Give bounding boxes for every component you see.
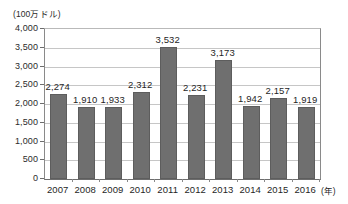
bar-value-label: 3,173 bbox=[206, 47, 240, 58]
y-axis-tick-mark bbox=[40, 141, 44, 142]
bar-value-label: 2,312 bbox=[123, 79, 157, 90]
y-axis-tick-mark bbox=[40, 84, 44, 85]
x-axis-tick-mark bbox=[99, 179, 100, 182]
y-axis-tick-label: 1,000 bbox=[15, 136, 38, 146]
bar-value-label: 1,933 bbox=[96, 94, 130, 105]
y-axis-tick-mark bbox=[40, 47, 44, 48]
y-axis-tick-mark bbox=[40, 159, 44, 160]
x-axis-tick-mark bbox=[127, 179, 128, 182]
y-axis-tick-label: 3,000 bbox=[15, 61, 38, 71]
y-axis-tick-label-group: 4,0003,5003,0002,5002,0001,5001,0005000 bbox=[0, 0, 38, 204]
x-axis-tick-mark bbox=[237, 179, 238, 182]
bar bbox=[105, 107, 122, 179]
x-axis-tick-mark bbox=[292, 179, 293, 182]
y-axis-tick-label: 2,500 bbox=[15, 79, 38, 89]
y-axis-tick-label: 1,500 bbox=[15, 117, 38, 127]
y-axis-tick-mark bbox=[40, 103, 44, 104]
bar bbox=[215, 60, 232, 179]
x-axis-tick-label: 2016 bbox=[288, 184, 322, 195]
bar bbox=[78, 107, 95, 179]
bar-value-label: 2,231 bbox=[178, 82, 212, 93]
y-axis-tick-mark bbox=[40, 66, 44, 67]
bar bbox=[50, 94, 67, 179]
y-axis-tick-label: 0 bbox=[33, 173, 38, 183]
x-axis-tick-mark bbox=[154, 179, 155, 182]
bar bbox=[188, 95, 205, 179]
x-axis-tick-mark bbox=[319, 179, 320, 182]
x-axis-tick-mark bbox=[72, 179, 73, 182]
y-axis-tick-mark bbox=[40, 178, 44, 179]
bar-chart-figure: (100万ドル) 4,0003,5003,0002,5002,0001,5001… bbox=[0, 0, 348, 204]
bar-value-label: 3,532 bbox=[151, 34, 185, 45]
x-axis-tick-mark bbox=[182, 179, 183, 182]
bar-value-label: 1,919 bbox=[288, 94, 322, 105]
y-axis-tick-label: 3,500 bbox=[15, 42, 38, 52]
x-axis-tick-mark bbox=[209, 179, 210, 182]
x-axis-tick-mark bbox=[264, 179, 265, 182]
gridline bbox=[45, 48, 320, 49]
y-axis-tick-label: 2,000 bbox=[15, 98, 38, 108]
bar bbox=[243, 106, 260, 179]
gridline bbox=[45, 67, 320, 68]
y-axis-tick-label: 500 bbox=[23, 154, 38, 164]
bar bbox=[133, 92, 150, 179]
bar bbox=[298, 107, 315, 179]
y-axis-tick-mark bbox=[40, 28, 44, 29]
y-axis-tick-label: 4,000 bbox=[15, 23, 38, 33]
bar-value-label: 2,274 bbox=[41, 81, 75, 92]
x-axis-unit-label: (年) bbox=[321, 184, 336, 196]
bar bbox=[270, 98, 287, 179]
bar bbox=[160, 47, 177, 179]
y-axis-tick-mark bbox=[40, 122, 44, 123]
